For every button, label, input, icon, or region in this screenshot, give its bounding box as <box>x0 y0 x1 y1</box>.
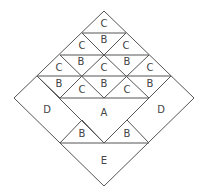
label-bottom-b-1: B <box>79 128 86 139</box>
diagram-canvas: C C B C C B C B C B C B C B A D D B B E <box>0 0 205 196</box>
label-r3-2: B <box>78 56 85 67</box>
label-r2-1: C <box>79 40 86 51</box>
label-r3-5: C <box>147 62 154 73</box>
label-r3-4: B <box>124 56 131 67</box>
label-center-a: A <box>101 107 108 118</box>
label-r4-5: B <box>147 78 154 89</box>
label-bottom-e: E <box>101 155 107 166</box>
label-r3-1: C <box>56 62 63 73</box>
label-right-d: D <box>157 104 165 115</box>
label-r2-2: B <box>101 34 108 45</box>
label-r4-2: C <box>79 84 86 95</box>
label-bottom-b-2: B <box>124 128 131 139</box>
label-left-d: D <box>43 104 51 115</box>
quilt-diagram: C C B C C B C B C B C B C B A D D B B E <box>0 0 205 196</box>
label-r4-4: C <box>124 84 131 95</box>
label-r4-3: B <box>101 78 108 89</box>
label-r2-3: C <box>123 40 130 51</box>
label-r4-1: B <box>56 78 63 89</box>
label-top-c: C <box>101 18 108 29</box>
label-r3-3: C <box>101 62 108 73</box>
